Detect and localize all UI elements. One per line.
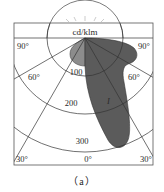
label-left-60: 60° <box>28 72 40 82</box>
label-right-90: 90° <box>138 41 150 51</box>
lobe-dark-I <box>85 38 137 148</box>
label-r200: 200 <box>65 98 78 108</box>
label-r100: 100 <box>70 67 83 77</box>
unit-label: cd/klm <box>73 27 98 37</box>
polar-intensity-diagram: cd/klm 90° 90° 60° 60° 30° 30° 0° 100 20… <box>0 0 164 192</box>
top-tick-marks <box>66 16 104 22</box>
label-r300: 300 <box>76 136 89 146</box>
figure-caption: （a） <box>0 173 164 188</box>
label-left-90: 90° <box>17 41 29 51</box>
label-right-30: 30° <box>140 154 152 164</box>
label-0: 0° <box>84 154 92 164</box>
label-left-30: 30° <box>16 154 28 164</box>
label-right-60: 60° <box>128 72 140 82</box>
